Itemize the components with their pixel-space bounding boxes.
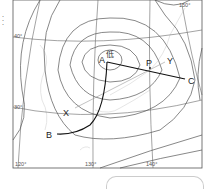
label-lat-30: 30° <box>14 104 22 110</box>
label-lon-120: 120° <box>15 161 26 167</box>
label-P: P <box>146 58 152 68</box>
weather-map: 40° 30° 120° 130° 140° 150° A 低 P Y C X … <box>0 0 207 189</box>
side-text: ・・・ <box>0 15 5 27</box>
label-A: A <box>99 55 105 65</box>
label-lon-150: 150° <box>179 2 190 8</box>
answer-box <box>106 176 204 189</box>
label-X: X <box>63 108 69 118</box>
label-B: B <box>46 130 52 140</box>
label-C: C <box>188 76 195 86</box>
label-lat-40: 40° <box>14 33 22 39</box>
label-Y: Y <box>167 56 173 66</box>
label-lon-130: 130° <box>85 161 96 167</box>
low-pressure-symbol: 低 <box>106 49 114 59</box>
label-lon-140: 140° <box>146 161 157 167</box>
